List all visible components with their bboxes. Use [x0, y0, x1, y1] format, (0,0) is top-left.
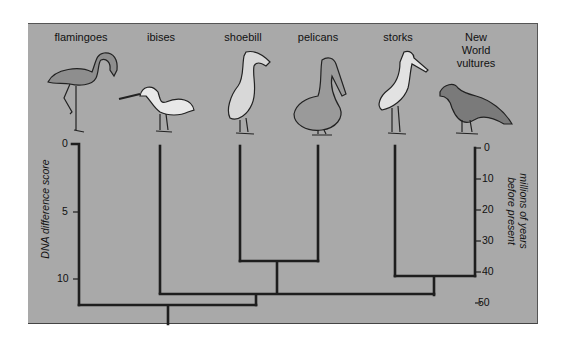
left-tick-5: 5	[62, 206, 68, 217]
right-tick-30: 30	[482, 235, 494, 246]
branch-flamingoes	[72, 144, 79, 305]
right-axis-title: millions of years before present	[506, 156, 530, 266]
stork-illustration	[379, 51, 428, 134]
clade-ibis-rest	[160, 294, 434, 305]
left-axis-title: DNA difference score	[39, 149, 51, 269]
right-tick-10: 10	[482, 173, 494, 184]
pelican-illustration	[294, 58, 346, 135]
right-axis-title-line1: millions of years	[518, 156, 530, 266]
right-tick-0: 0	[484, 142, 490, 153]
right-axis-title-line2: before present	[506, 156, 518, 266]
right-tick-40: 40	[482, 266, 494, 277]
phylogeny-tree	[0, 0, 561, 346]
clade-shoebill-pelicans	[240, 261, 318, 293]
ibis-illustration	[119, 87, 194, 132]
clade-storks-vultures	[395, 276, 475, 295]
clade-root	[79, 305, 256, 324]
tree-branches	[72, 144, 475, 324]
left-tick-10: 10	[57, 273, 69, 284]
shoebill-illustration	[228, 51, 270, 134]
vulture-illustration	[440, 85, 512, 134]
flamingo-illustration	[48, 53, 117, 132]
left-tick-0: 0	[62, 138, 68, 149]
right-tick-20: 20	[482, 204, 494, 215]
right-tick-50: 50	[478, 297, 490, 308]
